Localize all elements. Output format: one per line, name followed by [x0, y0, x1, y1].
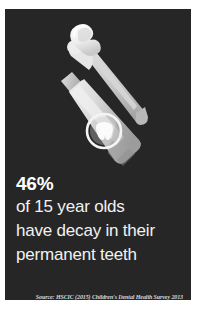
tooth-logo-icon [87, 114, 121, 148]
stat-text-block: 46% of 15 year olds have decay in their … [16, 172, 188, 267]
stat-line-2: have decay in their [16, 219, 188, 243]
stat-percent: 46% [16, 172, 188, 195]
stat-line-3: permanent teeth [16, 243, 188, 267]
stat-line-1: of 15 year olds [16, 195, 188, 219]
illustration-svg [5, 9, 191, 167]
toothpaste-tube [61, 72, 141, 166]
infographic-card: 46% of 15 year olds have decay in their … [5, 9, 191, 300]
source-citation: Source: HSCIC (2015) Children's Dental H… [16, 293, 183, 300]
dental-illustration [5, 9, 191, 167]
